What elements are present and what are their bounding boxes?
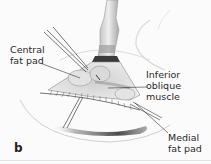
label-medial-fat-pad: Medial fat pad [168,132,202,154]
lower-lid-contour [20,100,170,142]
figure-bottom-border [0,160,211,161]
leader-central-fat-pad [40,63,80,78]
panel-letter: b [14,141,23,155]
label-inferior-oblique-muscle: Inferior oblique muscle [146,69,211,102]
instrument-lower [63,97,83,128]
surgical-figure-panel: Central fat pad Inferior oblique muscle … [0,0,211,164]
instrument-right [130,102,162,120]
forceps-upper [44,27,88,72]
cheek-shadow [50,126,147,136]
nose-contour [136,20,165,70]
label-central-fat-pad: Central fat pad [10,44,45,66]
